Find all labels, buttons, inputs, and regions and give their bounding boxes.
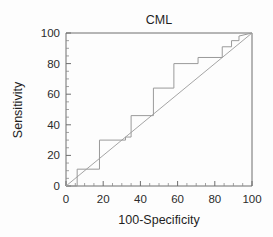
x-tick-label: 60 [171, 193, 184, 205]
y-tick-label: 100 [41, 27, 60, 39]
y-axis-ticks [66, 33, 71, 186]
x-tick-label: 0 [63, 193, 69, 205]
x-tick-label: 20 [97, 193, 110, 205]
y-axis-title: Sensitivity [11, 81, 25, 138]
x-axis-tick-labels: 020406080100 [63, 193, 262, 205]
y-tick-label: 80 [47, 58, 60, 70]
y-tick-label: 0 [54, 180, 60, 192]
y-tick-label: 20 [47, 149, 60, 161]
chart-title: CML [146, 13, 172, 27]
y-tick-label: 40 [47, 119, 60, 131]
roc-chart-canvas: CML 020406080100 020406080100 100-Specif… [0, 0, 273, 237]
x-tick-label: 40 [134, 193, 147, 205]
y-tick-label: 60 [47, 88, 60, 100]
x-tick-label: 100 [242, 193, 261, 205]
x-axis-title: 100-Specificity [118, 213, 200, 227]
x-axis-ticks [66, 181, 252, 186]
reference-diagonal-line [66, 33, 252, 186]
y-axis-tick-labels: 020406080100 [41, 27, 60, 192]
roc-chart-figure: CML 020406080100 020406080100 100-Specif… [0, 0, 273, 237]
x-tick-label: 80 [208, 193, 221, 205]
